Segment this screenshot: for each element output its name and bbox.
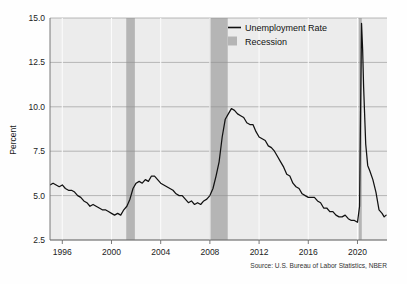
- x-tick-label: 2008: [200, 247, 219, 257]
- x-tick-label: 2012: [250, 247, 269, 257]
- y-tick-label: 15.0: [28, 13, 45, 23]
- x-axis-tick-labels: 1996200020042008201220162020: [53, 247, 367, 257]
- x-tick-label: 2020: [348, 247, 367, 257]
- y-tick-label: 10.0: [28, 102, 45, 112]
- y-tick-label: 7.5: [33, 146, 45, 156]
- y-axis-title: Percent: [8, 125, 18, 155]
- x-tick-label: 2004: [151, 247, 170, 257]
- x-tick-label: 2016: [299, 247, 318, 257]
- x-tick-label: 2000: [102, 247, 121, 257]
- recession-band-1: [126, 18, 135, 240]
- y-axis-tick-labels: 2.55.07.510.012.515.0: [28, 13, 45, 245]
- recession-band-2: [209, 18, 227, 240]
- legend-label-recession: Recession: [245, 37, 287, 47]
- y-tick-label: 2.5: [33, 235, 45, 245]
- y-tick-label: 5.0: [33, 191, 45, 201]
- legend-swatch-recession: [228, 37, 237, 46]
- x-tick-label: 1996: [53, 247, 72, 257]
- source-note: Source: U.S. Bureau of Labor Statistics,…: [250, 262, 387, 269]
- chart-figure: 2.55.07.510.012.515.0 199620002004200820…: [0, 0, 407, 284]
- y-tick-label: 12.5: [28, 57, 45, 67]
- x-axis-tick-marks: [62, 240, 357, 244]
- unemployment-rate-chart: 2.55.07.510.012.515.0 199620002004200820…: [0, 0, 407, 284]
- legend-label-unemployment-rate: Unemployment Rate: [245, 23, 327, 33]
